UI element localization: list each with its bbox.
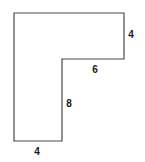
- dimension-label-inner-top: 6: [92, 65, 98, 75]
- dimension-label-right: 4: [128, 30, 134, 40]
- dimension-label-bottom: 4: [34, 147, 40, 157]
- dimension-label-inner-side: 8: [66, 99, 72, 109]
- l-shape-outline: [14, 13, 124, 141]
- geometry-figure: 4 6 8 4: [0, 0, 145, 162]
- l-shape-polygon: [0, 0, 145, 162]
